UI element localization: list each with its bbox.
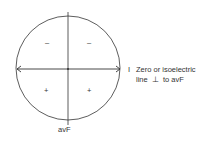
axis-label-avf: avF bbox=[58, 125, 71, 134]
axis-label-i: I bbox=[128, 65, 130, 74]
annotation-line-word: line bbox=[136, 75, 148, 84]
sign-top-right: – bbox=[87, 38, 91, 47]
annotation-to-avf: to avF bbox=[163, 75, 184, 84]
annotation-line-1: Zero or isoelectric bbox=[136, 65, 196, 74]
sign-bottom-left: + bbox=[44, 86, 48, 95]
annotation-line-2: line ⊥ to avF bbox=[136, 75, 184, 84]
center-dot bbox=[67, 68, 69, 70]
sign-bottom-right: + bbox=[87, 86, 91, 95]
perpendicular-icon: ⊥ bbox=[150, 75, 161, 84]
sign-top-left: – bbox=[45, 38, 49, 47]
